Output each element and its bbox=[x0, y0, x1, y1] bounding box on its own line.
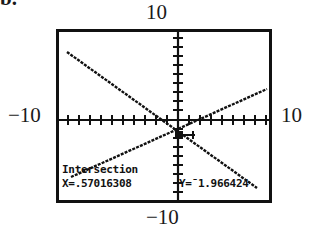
calculator-screen: Intersection X=.57016308 Y=¯1.966424 bbox=[56, 29, 272, 203]
axis-label-xmax: 10 bbox=[281, 105, 302, 126]
intersection-x-value: X=.57016308 bbox=[62, 178, 132, 190]
axis-label-ymin: −10 bbox=[146, 207, 179, 228]
axis-label-xmin: −10 bbox=[8, 105, 41, 126]
axis-label-ymax: 10 bbox=[146, 2, 167, 23]
intersection-label: Intersection bbox=[62, 164, 138, 176]
crosshair-cursor bbox=[175, 131, 195, 139]
problem-item-marker: b. bbox=[0, 0, 17, 8]
intersection-y-value: Y=¯1.966424 bbox=[179, 178, 249, 190]
